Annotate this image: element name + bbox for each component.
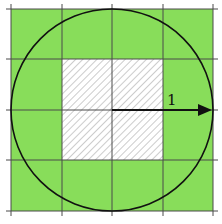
radius-label: 1 <box>167 91 177 109</box>
diagram-canvas: 1 <box>0 0 222 224</box>
